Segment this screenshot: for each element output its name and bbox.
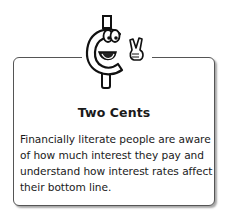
callout-body: Financially literate people are aware of…	[20, 131, 216, 195]
cent-mascot-icon	[82, 14, 152, 92]
callout-title: Two Cents	[13, 105, 215, 120]
